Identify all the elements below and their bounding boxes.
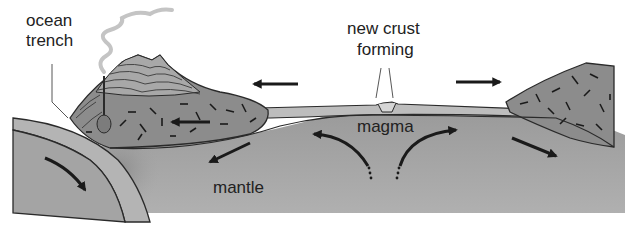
- ocean-trench-leader: [52, 64, 68, 118]
- new-crust-leader-left: [376, 68, 381, 98]
- new-crust-label-2: forming: [357, 40, 414, 59]
- ocean-trench-label-1: ocean: [26, 11, 72, 30]
- new-crust-label-1: new crust: [347, 19, 420, 38]
- new-crust-leader-right: [389, 68, 393, 98]
- magma-label: magma: [357, 117, 414, 136]
- plate-tectonics-diagram: ocean trench new crust forming magma man…: [0, 0, 638, 235]
- ocean-trench-label-2: trench: [26, 31, 73, 50]
- magma-chamber: [97, 115, 111, 133]
- mantle-label: mantle: [213, 178, 264, 197]
